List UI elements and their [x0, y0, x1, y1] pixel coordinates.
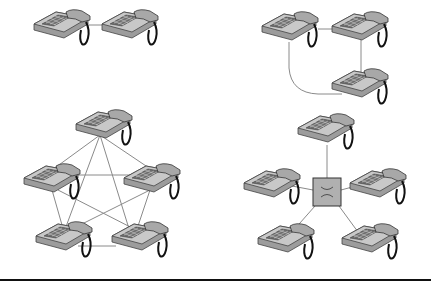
phone-icon [34, 10, 90, 45]
phone-icon [244, 169, 300, 204]
panel-point-to-point [34, 10, 158, 45]
phone-icon [262, 12, 318, 47]
phone-icon [124, 164, 180, 199]
phone-icon [298, 114, 354, 149]
phone-icon [102, 10, 158, 45]
phone-icon [332, 12, 388, 47]
phone-icon [112, 222, 168, 257]
mesh-phones [24, 110, 180, 257]
network-topologies-diagram [0, 0, 435, 285]
phone-icon [350, 169, 406, 204]
switch [313, 178, 341, 206]
phone-icon [76, 110, 132, 145]
phone-icon [36, 222, 92, 257]
phone-icon [342, 224, 398, 259]
phone-icon [258, 224, 314, 259]
panel-line-topology [262, 12, 388, 104]
phone-icon [24, 164, 80, 199]
phone-icon [332, 69, 388, 104]
